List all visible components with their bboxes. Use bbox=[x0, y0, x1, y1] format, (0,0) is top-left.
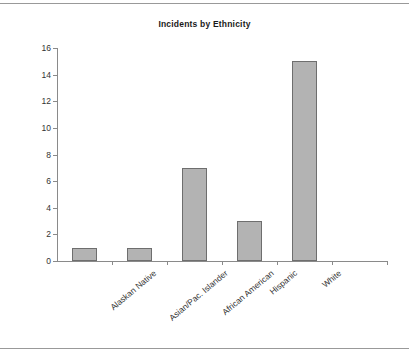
bar[interactable] bbox=[72, 248, 97, 261]
y-tick-mark bbox=[53, 48, 57, 49]
bar[interactable] bbox=[127, 248, 152, 261]
y-tick-mark bbox=[53, 155, 57, 156]
y-tick-mark bbox=[53, 75, 57, 76]
x-tick-mark bbox=[112, 261, 113, 265]
y-tick-mark bbox=[53, 101, 57, 102]
bottom-divider bbox=[0, 348, 409, 349]
y-tick-mark bbox=[53, 128, 57, 129]
y-tick-label: 16 bbox=[42, 43, 51, 53]
x-tick-mark bbox=[277, 261, 278, 265]
bar[interactable] bbox=[237, 221, 262, 261]
x-tick-label: Asian/Pac. Islander bbox=[167, 268, 230, 323]
y-tick-label: 4 bbox=[46, 203, 51, 213]
x-tick-mark bbox=[332, 261, 333, 265]
bar[interactable] bbox=[182, 168, 207, 261]
y-tick-mark bbox=[53, 234, 57, 235]
y-tick-mark bbox=[53, 261, 57, 262]
y-tick-label: 10 bbox=[42, 123, 51, 133]
top-divider bbox=[0, 3, 409, 4]
y-tick-label: 8 bbox=[46, 150, 51, 160]
y-tick-label: 6 bbox=[46, 176, 51, 186]
bar[interactable] bbox=[292, 61, 317, 261]
y-tick-label: 2 bbox=[46, 229, 51, 239]
x-tick-mark bbox=[167, 261, 168, 265]
x-tick-label: White bbox=[320, 268, 343, 290]
x-tick-label: Alaskan Native bbox=[108, 268, 158, 312]
x-tick-mark bbox=[387, 261, 388, 265]
y-tick-label: 14 bbox=[42, 70, 51, 80]
chart-title: Incidents by Ethnicity bbox=[0, 19, 409, 29]
chart-page: Incidents by Ethnicity 0246810121416 Ala… bbox=[0, 0, 409, 359]
y-tick-mark bbox=[53, 181, 57, 182]
x-tick-mark bbox=[222, 261, 223, 265]
plot-area: 0246810121416 Alaskan NativeAsian/Pac. I… bbox=[57, 48, 387, 261]
y-tick-label: 12 bbox=[42, 96, 51, 106]
y-tick-label: 0 bbox=[46, 256, 51, 266]
y-tick-mark bbox=[53, 208, 57, 209]
y-axis-line bbox=[57, 48, 58, 261]
